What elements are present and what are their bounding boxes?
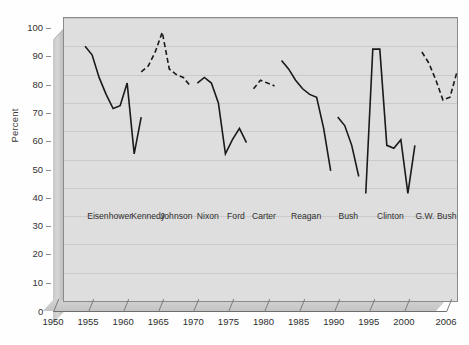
y-axis-tick-label: 100 bbox=[17, 24, 43, 32]
y-axis-tick-mark bbox=[46, 198, 51, 199]
y-axis-tick-mark bbox=[46, 141, 51, 142]
x-axis-tick-label: 1955 bbox=[68, 317, 108, 327]
x-axis-tick-label: 2006 bbox=[426, 317, 466, 327]
series-line bbox=[422, 52, 457, 100]
y-axis-tick-mark bbox=[46, 56, 51, 57]
era-label: Johnson bbox=[160, 211, 193, 221]
plot-area: EisenhowerKennedyJohnsonNixonFordCarterR… bbox=[63, 17, 458, 302]
x-axis-tick-label: 1980 bbox=[244, 317, 284, 327]
series-line bbox=[85, 46, 141, 154]
y-axis-tick-label: 40 bbox=[17, 194, 43, 202]
x-axis-tick-label: 1975 bbox=[208, 317, 248, 327]
era-label: Nixon bbox=[197, 211, 219, 221]
x-axis-tick-label: 1970 bbox=[173, 317, 213, 327]
x-axis-tick-label: 1985 bbox=[279, 317, 319, 327]
y-axis-tick-label: 50 bbox=[17, 166, 43, 174]
x-axis-tick-label: 1990 bbox=[314, 317, 354, 327]
series-group bbox=[64, 18, 457, 301]
y-axis-tick-mark bbox=[46, 113, 51, 114]
y-axis-tick-label: 30 bbox=[17, 222, 43, 230]
y-axis-tick-label: 70 bbox=[17, 109, 43, 117]
series-line bbox=[366, 49, 415, 193]
y-axis-tick-mark bbox=[46, 254, 51, 255]
y-axis-tick-mark bbox=[46, 226, 51, 227]
y-axis-zero-label: 0 bbox=[38, 306, 43, 317]
y-axis-title: Percent bbox=[9, 91, 20, 161]
x-axis-tick-label: 1995 bbox=[349, 317, 389, 327]
series-line bbox=[338, 117, 359, 176]
y-axis-tick-label: 80 bbox=[17, 81, 43, 89]
x-axis-tick-label: 1950 bbox=[33, 317, 73, 327]
era-label: Reagan bbox=[291, 211, 321, 221]
y-axis-tick-label: 60 bbox=[17, 137, 43, 145]
era-label: Bush bbox=[338, 211, 358, 221]
series-line bbox=[141, 32, 190, 86]
x-axis-tick-label: 1960 bbox=[103, 317, 143, 327]
era-label: Clinton bbox=[377, 211, 404, 221]
y-axis-tick-label: 90 bbox=[17, 52, 43, 60]
x-axis-line bbox=[53, 311, 446, 312]
y-axis-tick-label: 10 bbox=[17, 279, 43, 287]
y-axis-tick-label: 20 bbox=[17, 250, 43, 258]
x-axis-tick-label: 1965 bbox=[138, 317, 178, 327]
x-axis-tick-label: 2000 bbox=[384, 317, 424, 327]
era-label: Ford bbox=[227, 211, 245, 221]
chart-root: Percent 0102030405060708090100 Eisenhowe… bbox=[0, 0, 469, 345]
series-line bbox=[197, 77, 246, 153]
series-line bbox=[282, 60, 331, 170]
era-label: G.W. Bush bbox=[415, 211, 456, 221]
series-line bbox=[253, 80, 274, 88]
y-axis-tick-mark bbox=[46, 85, 51, 86]
y-axis-tick-mark bbox=[46, 28, 51, 29]
y-axis-tick-mark bbox=[46, 170, 51, 171]
era-label: Carter bbox=[252, 211, 276, 221]
y-axis-tick-mark bbox=[46, 283, 51, 284]
era-label: Eisenhower bbox=[87, 211, 132, 221]
